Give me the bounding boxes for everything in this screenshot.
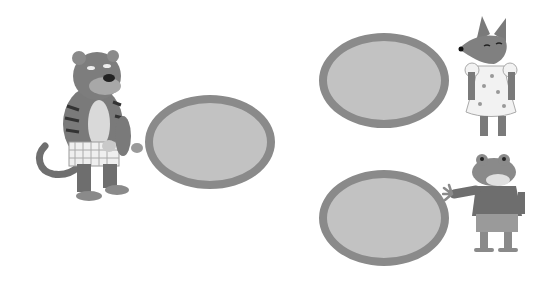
fox-character [456,12,528,140]
tiger-character [33,46,147,202]
fox-speech-bubble[interactable] [319,33,449,128]
tiger-speech-bubble[interactable] [145,95,275,189]
frog-speech-bubble[interactable] [319,170,449,266]
frog-character [442,150,534,256]
illustration-scene [0,0,557,285]
